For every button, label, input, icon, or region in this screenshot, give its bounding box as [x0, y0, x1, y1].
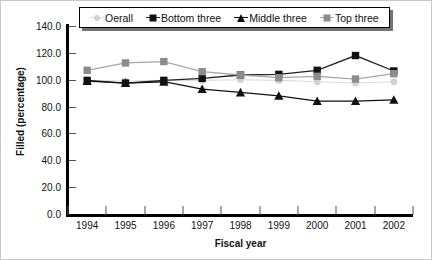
- y-tick-label: 120.0: [9, 47, 61, 58]
- legend-swatch: [90, 17, 104, 19]
- data-point: [160, 58, 167, 65]
- legend-item-top-three[interactable]: Top three: [320, 12, 379, 24]
- data-point: [390, 70, 397, 77]
- data-point: [237, 71, 244, 78]
- y-tick-label: 0.0: [9, 209, 61, 220]
- legend-swatch: [146, 17, 160, 19]
- legend-swatch: [234, 17, 248, 19]
- legend-item-bottom-three[interactable]: Bottom three: [146, 12, 221, 24]
- plot-area: [68, 26, 413, 214]
- data-point: [198, 75, 205, 82]
- x-axis-label: Fiscal year: [68, 238, 413, 249]
- y-tick-label: 80.0: [9, 101, 61, 112]
- y-tick-label: 60.0: [9, 128, 61, 139]
- data-point: [352, 52, 359, 59]
- data-point: [390, 78, 397, 85]
- data-point: [122, 59, 129, 66]
- x-tick-label: 2002: [370, 220, 418, 231]
- chart-figure: Filled (percentage) Fiscal year 0.020.04…: [0, 0, 432, 260]
- y-tick-label: 100.0: [9, 74, 61, 85]
- data-point: [198, 68, 205, 75]
- legend-marker-square-icon: [150, 14, 157, 21]
- data-point: [83, 67, 90, 74]
- legend-item-middle-three[interactable]: Middle three: [234, 12, 307, 24]
- data-point: [275, 74, 282, 81]
- y-tick-label: 20.0: [9, 182, 61, 193]
- legend-marker-circle-icon: [94, 15, 100, 21]
- data-point: [352, 75, 359, 82]
- chart-legend: OerallBottom threeMiddle threeTop three: [79, 7, 390, 28]
- legend-marker-square-icon: [323, 14, 330, 21]
- legend-label: Middle three: [249, 12, 307, 24]
- legend-label: Oerall: [105, 12, 133, 24]
- legend-label: Top three: [335, 12, 379, 24]
- x-axis-line: [66, 214, 413, 217]
- y-tick-label: 40.0: [9, 155, 61, 166]
- series-layer: [68, 26, 413, 214]
- legend-swatch: [320, 17, 334, 19]
- legend-marker-triangle-icon: [237, 14, 245, 22]
- legend-item-oerall[interactable]: Oerall: [90, 12, 133, 24]
- data-point: [313, 73, 320, 80]
- y-tick-label: 140.0: [9, 21, 61, 32]
- legend-label: Bottom three: [161, 12, 221, 24]
